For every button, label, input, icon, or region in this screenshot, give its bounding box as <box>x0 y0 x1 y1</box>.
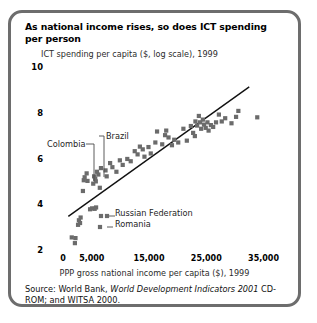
y-tick-4: 4 <box>27 199 43 209</box>
x-tick-0: 0 <box>60 254 66 263</box>
scatter-point <box>199 127 203 131</box>
scatter-point <box>153 140 157 144</box>
scatter-point <box>73 236 77 240</box>
scatter-point <box>211 125 215 129</box>
x-axis-label: PPP gross national income per capita ($)… <box>60 268 250 278</box>
scatter-point <box>96 172 100 176</box>
scatter-point <box>99 166 103 170</box>
x-tick-5000: 5,000 <box>79 254 104 263</box>
scatter-point <box>236 109 240 113</box>
scatter-point <box>193 119 197 123</box>
scatter-point <box>229 121 233 125</box>
scatter-point <box>129 159 133 163</box>
scatter-point <box>81 189 85 193</box>
annotation-russian-federation: Russian Federation <box>115 208 193 218</box>
scatter-point <box>142 155 146 159</box>
y-tick-8: 8 <box>27 108 43 118</box>
scatter-point <box>181 127 185 131</box>
annotation-brazil: Brazil <box>106 131 129 141</box>
scatter-point <box>185 139 189 143</box>
scatter-point <box>189 124 193 128</box>
source-prefix: Source: World Bank, <box>25 284 110 294</box>
scatter-point <box>176 140 180 144</box>
scatter-point <box>78 221 82 225</box>
scatter-point <box>234 115 238 119</box>
scatter-point <box>135 152 139 156</box>
scatter-point <box>160 142 164 146</box>
scatter-point <box>172 138 176 142</box>
scatter-point <box>121 163 125 167</box>
scatter-point <box>201 118 205 122</box>
scatter-point <box>193 134 197 138</box>
scatter-point <box>255 115 259 119</box>
annotation-romania: Romania <box>115 219 151 229</box>
callout-marker <box>105 214 109 218</box>
scatter-plot-area <box>11 13 304 310</box>
x-tick-35000: 35,000 <box>248 254 279 263</box>
scatter-point <box>85 179 89 183</box>
scatter-point <box>98 186 102 190</box>
scatter-point <box>155 129 159 133</box>
x-tick-25000: 25,000 <box>191 254 222 263</box>
y-tick-10: 10 <box>27 62 43 72</box>
scatter-point <box>73 241 77 245</box>
scatter-point <box>79 215 83 219</box>
scatter-point <box>70 235 74 239</box>
chart-panel: As national income rises, so does ICT sp… <box>8 10 301 307</box>
scatter-point <box>164 128 168 132</box>
source-note: Source: World Bank, World Development In… <box>25 284 291 306</box>
scatter-point <box>214 120 218 124</box>
annotation-colombia: Colombia <box>47 139 85 149</box>
scatter-point <box>85 171 89 175</box>
scatter-point <box>141 147 145 151</box>
x-tick-15000: 15,000 <box>134 254 165 263</box>
scatter-point <box>108 161 112 165</box>
y-tick-6: 6 <box>27 154 43 164</box>
scatter-point <box>114 170 118 174</box>
plot-svg <box>11 13 304 310</box>
scatter-point <box>170 143 174 147</box>
scatter-point <box>206 128 210 132</box>
scatter-point <box>110 165 114 169</box>
scatter-point <box>149 151 153 155</box>
scatter-point <box>118 158 122 162</box>
scatter-point <box>223 116 227 120</box>
callout-marker <box>99 214 103 218</box>
scatter-point <box>94 205 98 209</box>
scatter-point <box>217 112 221 116</box>
scatter-point <box>83 175 87 179</box>
trend-line <box>68 87 249 216</box>
source-italic-title: World Development Indicators 2001 <box>110 284 258 294</box>
y-tick-2: 2 <box>27 245 43 255</box>
scatter-point <box>166 135 170 139</box>
scatter-point <box>197 114 201 118</box>
scatter-point <box>105 174 109 178</box>
scatter-point <box>146 145 150 149</box>
callout-marker <box>98 225 102 229</box>
